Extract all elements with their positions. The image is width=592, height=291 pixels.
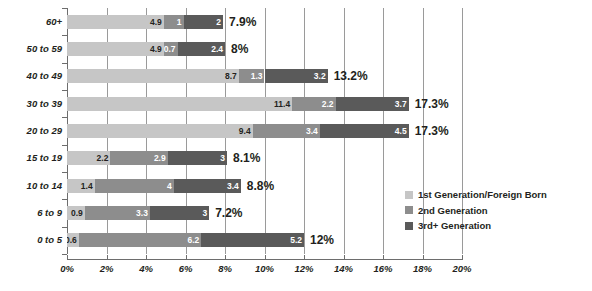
legend-item: 2nd Generation bbox=[405, 205, 547, 216]
segment-value-label: 2 bbox=[216, 17, 221, 26]
segment-value-label: 1.3 bbox=[251, 72, 263, 81]
segment-value-label: 1.4 bbox=[81, 181, 93, 190]
bar-total-label: 17.3% bbox=[415, 124, 449, 138]
bar-row: 9.43.44.5 bbox=[67, 124, 462, 138]
x-axis-label-18%: 18% bbox=[413, 263, 432, 274]
x-axis-label-8%: 8% bbox=[218, 263, 232, 274]
x-axis-tick bbox=[423, 255, 424, 260]
bar-segment: 3.2 bbox=[265, 69, 328, 83]
bar-segment: 0.7 bbox=[164, 42, 178, 56]
y-axis-label-60plus: 60+ bbox=[0, 16, 62, 27]
segment-value-label: 9.4 bbox=[239, 127, 251, 136]
x-axis-tick bbox=[107, 255, 108, 260]
legend-label: 3rd+ Generation bbox=[418, 220, 491, 231]
x-axis-label-10%: 10% bbox=[255, 263, 274, 274]
bar-row: 8.71.33.2 bbox=[67, 69, 462, 83]
bar-segment: 1.4 bbox=[67, 179, 95, 193]
legend-label: 2nd Generation bbox=[418, 205, 488, 216]
segment-value-label: 2.9 bbox=[154, 154, 166, 163]
x-axis-label-16%: 16% bbox=[373, 263, 392, 274]
x-axis-label-12%: 12% bbox=[294, 263, 313, 274]
bar-row: 4.912 bbox=[67, 15, 462, 29]
bar-segment: 3.7 bbox=[336, 97, 409, 111]
segment-value-label: 5.2 bbox=[290, 236, 302, 245]
x-axis-label-20%: 20% bbox=[452, 263, 471, 274]
y-axis-tick bbox=[62, 35, 67, 36]
segment-value-label: 2.4 bbox=[211, 45, 223, 54]
bar-segment: 0.9 bbox=[67, 206, 85, 220]
legend-item: 1st Generation/Foreign Born bbox=[405, 189, 547, 200]
bar-segment: 3 bbox=[150, 206, 209, 220]
bar-row: 4.90.72.4 bbox=[67, 42, 462, 56]
bar-segment: 1.3 bbox=[239, 69, 265, 83]
bar-segment: 3.4 bbox=[174, 179, 241, 193]
x-axis-label-6%: 6% bbox=[179, 263, 193, 274]
bar-row: 0.66.25.2 bbox=[67, 233, 462, 247]
stacked-bar-chart: 60+50 to 5940 to 4930 to 3920 to 2915 to… bbox=[0, 0, 592, 291]
segment-value-label: 3.7 bbox=[395, 99, 407, 108]
segment-value-label: 2.2 bbox=[97, 154, 109, 163]
chart-legend: 1st Generation/Foreign Born2nd Generatio… bbox=[405, 189, 547, 236]
bar-segment: 5.2 bbox=[201, 233, 304, 247]
bar-row: 0.93.33 bbox=[67, 206, 462, 220]
x-axis-tick bbox=[383, 255, 384, 260]
bar-row: 2.22.93 bbox=[67, 151, 462, 165]
bar-total-label: 8.8% bbox=[247, 179, 274, 193]
bar-segment: 11.4 bbox=[67, 97, 292, 111]
segment-value-label: 4.9 bbox=[150, 17, 162, 26]
bar-segment: 4 bbox=[95, 179, 174, 193]
y-axis-label-40-to-49: 40 to 49 bbox=[0, 70, 62, 81]
segment-value-label: 4 bbox=[167, 181, 172, 190]
y-axis-tick bbox=[62, 90, 67, 91]
bar-segment: 3 bbox=[168, 151, 227, 165]
bar-total-label: 7.9% bbox=[229, 15, 256, 29]
y-axis-label-0-to-5: 0 to 5 bbox=[0, 234, 62, 245]
bar-segment: 2.9 bbox=[110, 151, 167, 165]
legend-label: 1st Generation/Foreign Born bbox=[418, 189, 547, 200]
y-axis-label-10-to-14: 10 to 14 bbox=[0, 180, 62, 191]
bar-segment: 0.6 bbox=[67, 233, 79, 247]
segment-value-label: 6.2 bbox=[187, 236, 199, 245]
bar-total-label: 12% bbox=[310, 233, 334, 247]
segment-value-label: 0.6 bbox=[67, 236, 77, 245]
bar-segment: 4.9 bbox=[67, 15, 164, 29]
bar-total-label: 8.1% bbox=[233, 151, 260, 165]
segment-value-label: 4.9 bbox=[150, 45, 162, 54]
y-axis-label-30-to-39: 30 to 39 bbox=[0, 98, 62, 109]
segment-value-label: 3.4 bbox=[306, 127, 318, 136]
bar-total-label: 7.2% bbox=[215, 206, 242, 220]
segment-value-label: 0.7 bbox=[164, 45, 176, 54]
bar-segment: 2.2 bbox=[292, 97, 335, 111]
bar-segment: 3.3 bbox=[85, 206, 150, 220]
y-axis-label-15-to-19: 15 to 19 bbox=[0, 152, 62, 163]
y-axis-label-6-to-9: 6 to 9 bbox=[0, 207, 62, 218]
bar-row: 11.42.23.7 bbox=[67, 97, 462, 111]
segment-value-label: 8.7 bbox=[225, 72, 237, 81]
y-axis-tick bbox=[62, 199, 67, 200]
x-axis-tick bbox=[67, 255, 68, 260]
segment-value-label: 3.4 bbox=[227, 181, 239, 190]
segment-value-label: 4.5 bbox=[395, 127, 407, 136]
bar-segment: 8.7 bbox=[67, 69, 239, 83]
y-axis-tick bbox=[62, 8, 67, 9]
y-axis-tick bbox=[62, 63, 67, 64]
legend-item: 3rd+ Generation bbox=[405, 220, 547, 231]
bar-segment: 4.9 bbox=[67, 42, 164, 56]
legend-swatch-icon bbox=[405, 191, 413, 199]
x-axis-tick bbox=[186, 255, 187, 260]
y-axis-tick bbox=[62, 117, 67, 118]
segment-value-label: 2.2 bbox=[322, 99, 334, 108]
legend-swatch-icon bbox=[405, 222, 413, 230]
x-axis-tick bbox=[462, 255, 463, 260]
x-axis-tick bbox=[344, 255, 345, 260]
segment-value-label: 3 bbox=[220, 154, 225, 163]
bar-segment: 6.2 bbox=[79, 233, 201, 247]
x-axis-tick bbox=[225, 255, 226, 260]
segment-value-label: 0.9 bbox=[71, 209, 83, 218]
x-axis-tick bbox=[265, 255, 266, 260]
y-axis-tick bbox=[62, 227, 67, 228]
segment-value-label: 3.3 bbox=[136, 209, 148, 218]
bar-segment: 2.2 bbox=[67, 151, 110, 165]
bar-segment: 2 bbox=[184, 15, 224, 29]
bar-segment: 4.5 bbox=[320, 124, 409, 138]
